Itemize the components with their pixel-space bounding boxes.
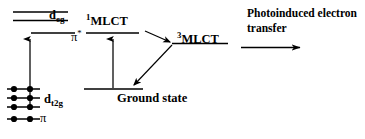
- electron-dot: [11, 86, 17, 92]
- label-pi-star-superscript: *: [77, 28, 81, 38]
- isc-arrow: [145, 31, 170, 42]
- label-photoinduced-electron-transfer: Photoinduced electrontransfer: [247, 8, 357, 34]
- label-d-eg: deg: [49, 9, 64, 24]
- label-d-eg-subscript: eg: [56, 14, 65, 24]
- label-mlct-singlet-base: MLCT: [90, 14, 128, 28]
- label-ground-state: Ground state: [117, 92, 187, 105]
- electron-dot: [11, 95, 17, 101]
- label-d-t2g: dt2g: [44, 93, 63, 108]
- label-pi-star: π*: [71, 29, 82, 43]
- label-d-eg-base: d: [49, 8, 56, 22]
- electron-dot: [11, 116, 17, 122]
- label-pet-line1: Photoinduced electron: [247, 7, 357, 19]
- state-manifold-middle: [84, 33, 143, 89]
- orbital-manifold-left: [7, 12, 75, 122]
- electron-dot: [27, 116, 33, 122]
- energy-level-diagram: deg π* dt2g π 1MLCT 3MLCT Ground state P…: [0, 0, 365, 139]
- label-mlct-triplet: 3MLCT: [177, 31, 219, 45]
- label-pet-line2: transfer: [247, 23, 357, 35]
- label-pi: π: [40, 112, 46, 125]
- label-mlct-triplet-base: MLCT: [181, 32, 219, 46]
- label-pi-base: π: [40, 111, 46, 125]
- label-d-t2g-base: d: [44, 92, 51, 106]
- electron-dot: [11, 104, 17, 110]
- label-mlct-singlet: 1MLCT: [86, 13, 128, 27]
- decay-arrow: [134, 45, 172, 85]
- label-d-t2g-subscript: t2g: [51, 98, 63, 108]
